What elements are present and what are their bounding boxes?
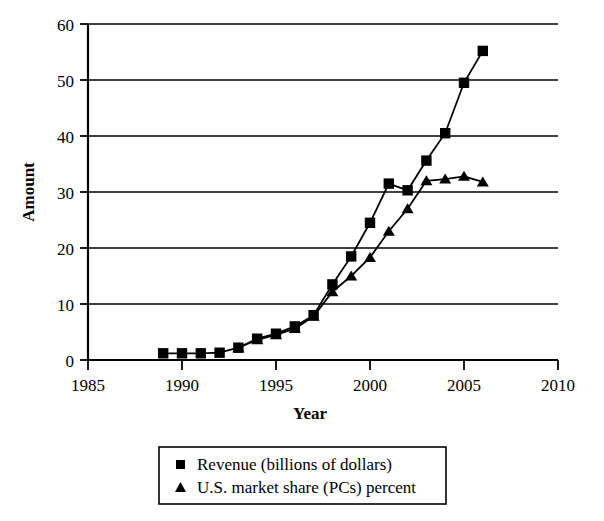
square-marker xyxy=(421,155,431,165)
square-marker xyxy=(196,348,206,358)
y-tick-marks xyxy=(80,24,88,360)
y-tick-label-40: 40 xyxy=(57,128,74,147)
y-tick-label-10: 10 xyxy=(57,296,74,315)
y-tick-label-50: 50 xyxy=(57,72,74,91)
x-tick-label-1990: 1990 xyxy=(165,376,199,395)
square-marker xyxy=(478,46,488,56)
square-marker xyxy=(402,185,412,195)
square-marker xyxy=(177,348,187,358)
square-marker xyxy=(384,178,394,188)
square-marker xyxy=(214,348,224,358)
y-tick-label-0: 0 xyxy=(66,352,75,371)
y-tick-label-30: 30 xyxy=(57,184,74,203)
x-axis-title: Year xyxy=(293,404,327,423)
square-marker xyxy=(158,348,168,358)
x-tick-label-2000: 2000 xyxy=(353,376,387,395)
legend-square-marker-icon xyxy=(176,460,185,469)
chart-svg: 60 50 40 30 20 10 0 1985 1990 1995 2000 … xyxy=(0,0,604,521)
chart-container: 60 50 40 30 20 10 0 1985 1990 1995 2000 … xyxy=(0,0,604,521)
square-marker xyxy=(365,218,375,228)
x-tick-label-1985: 1985 xyxy=(71,376,105,395)
y-tick-label-20: 20 xyxy=(57,240,74,259)
x-tick-label-2005: 2005 xyxy=(447,376,481,395)
square-marker xyxy=(346,251,356,261)
x-tick-label-2010: 2010 xyxy=(541,376,575,395)
x-tick-marks xyxy=(88,360,558,370)
x-tick-label-1995: 1995 xyxy=(259,376,293,395)
legend-label-market-share: U.S. market share (PCs) percent xyxy=(197,478,416,497)
legend: Revenue (billions of dollars) U.S. marke… xyxy=(159,447,446,504)
square-marker xyxy=(459,78,469,88)
y-axis-title: Amount xyxy=(19,162,38,222)
legend-label-revenue: Revenue (billions of dollars) xyxy=(197,455,392,474)
y-tick-label-60: 60 xyxy=(57,16,74,35)
square-marker xyxy=(440,128,450,138)
